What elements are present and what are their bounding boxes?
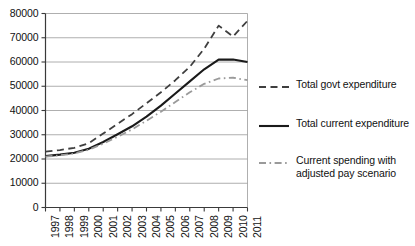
y-axis-tick-label: 80000 <box>0 8 39 19</box>
legend-label: Current spending with adjusted pay scena… <box>296 154 396 179</box>
x-axis-tick-label: 2000 <box>93 215 104 238</box>
series-line-1 <box>46 60 248 157</box>
legend-item-1: Total current expenditure <box>259 117 409 130</box>
x-axis-tick-label: 2011 <box>252 216 263 238</box>
legend-label: Total current expenditure <box>296 117 409 130</box>
legend-swatch-solid <box>259 118 289 130</box>
x-axis-tick-label: 2004 <box>151 215 162 238</box>
x-axis-tick-label: 2010 <box>238 215 249 238</box>
x-axis-tick-label: 2007 <box>194 215 205 238</box>
line-chart: 0100002000030000400005000060000700008000… <box>0 0 415 246</box>
legend-item-0: Total govt expenditure <box>259 78 397 91</box>
y-axis-tick-label: 10000 <box>0 177 39 188</box>
x-axis-ticks <box>46 208 248 212</box>
y-axis-tick-label: 30000 <box>0 129 39 140</box>
x-axis-tick-label: 2002 <box>122 215 133 238</box>
x-axis-tick-label: 2008 <box>209 215 220 238</box>
legend-label: Total govt expenditure <box>296 78 397 91</box>
y-axis-tick-label: 0 <box>0 202 39 213</box>
y-axis-tick-label: 50000 <box>0 80 39 91</box>
x-axis-tick-label: 2005 <box>165 215 176 238</box>
gridlines <box>46 14 248 208</box>
x-axis-tick-label: 1999 <box>79 215 90 238</box>
x-axis-tick-label: 1998 <box>64 215 75 238</box>
x-axis-tick-label: 1997 <box>50 215 61 238</box>
x-axis-tick-label: 2009 <box>223 215 234 238</box>
data-series <box>46 21 248 157</box>
y-axis-tick-label: 70000 <box>0 32 39 43</box>
legend-swatch-dashdot <box>259 155 289 167</box>
y-axis-tick-label: 60000 <box>0 56 39 67</box>
y-axis-tick-label: 20000 <box>0 153 39 164</box>
x-axis-tick-label: 2001 <box>108 215 119 238</box>
y-axis-tick-label: 40000 <box>0 105 39 116</box>
legend-item-2: Current spending with adjusted pay scena… <box>259 154 396 179</box>
x-axis-tick-label: 2006 <box>180 215 191 238</box>
legend-swatch-dashed <box>259 79 289 91</box>
x-axis-tick-label: 2003 <box>137 215 148 238</box>
